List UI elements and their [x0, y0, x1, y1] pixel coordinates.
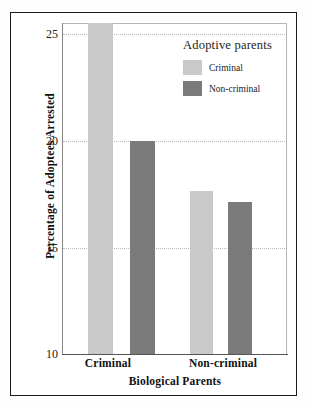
- legend-swatch-noncriminal: [183, 81, 202, 96]
- legend-entry-noncriminal: Non-criminal: [183, 81, 283, 96]
- y-tick-label-25: 25: [34, 28, 58, 40]
- x-axis-title: Biological Parents: [62, 375, 288, 387]
- x-tick-label-criminal: Criminal: [68, 357, 148, 369]
- y-tick-label-10: 10: [34, 348, 58, 360]
- bar-noncriminal-noncriminal: [228, 202, 252, 354]
- legend: Adoptive parents Criminal Non-criminal: [183, 38, 283, 102]
- bar-criminal-criminal: [88, 23, 113, 354]
- y-axis-title: Percentage of Adoptees Arrested: [44, 46, 56, 306]
- legend-label-criminal: Criminal: [209, 63, 243, 73]
- legend-label-noncriminal: Non-criminal: [209, 84, 260, 94]
- x-tick-label-noncriminal: Non-criminal: [178, 357, 268, 369]
- legend-entry-criminal: Criminal: [183, 60, 283, 75]
- chart-figure: 25 20 15 10 Criminal Non-criminal Biolog…: [0, 0, 311, 410]
- legend-title: Adoptive parents: [183, 38, 283, 53]
- bar-noncriminal-criminal: [190, 191, 213, 354]
- x-axis-line: [62, 354, 288, 355]
- bar-criminal-noncriminal: [130, 141, 155, 354]
- legend-swatch-criminal: [183, 60, 202, 75]
